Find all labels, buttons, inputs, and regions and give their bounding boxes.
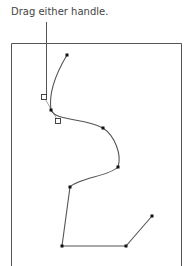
anchor-point[interactable] [102,127,105,130]
anchor-point[interactable] [117,166,120,169]
anchor-point[interactable] [69,186,72,189]
anchor-point[interactable] [125,245,128,248]
anchor-point[interactable] [151,215,154,218]
anchor-point[interactable] [61,245,64,248]
artboard-frame [12,44,182,266]
path-canvas [0,0,192,266]
anchor-point[interactable] [66,54,69,57]
direction-handle-in[interactable] [42,95,47,100]
direction-handle-out[interactable] [56,119,61,124]
anchor-points [50,54,154,248]
anchor-point-selected[interactable] [50,109,53,112]
bezier-path[interactable] [50,55,152,246]
